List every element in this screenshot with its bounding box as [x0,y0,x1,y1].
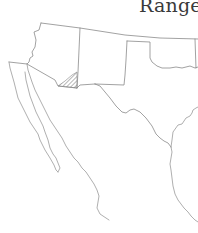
arizona-western-border [9,23,41,64]
range-highlight-area [58,72,77,88]
rio-grande-border [95,84,171,147]
new-mexico-texas-border [95,41,127,85]
baja-california-west-coast [9,62,58,172]
us-mexico-border-new-mexico [77,84,95,88]
range-map [0,0,198,233]
oklahoma-east-border [195,39,196,68]
oklahoma-border [127,41,198,68]
arizona-new-mexico-border [77,28,80,88]
mexico-gulf-coast [170,147,198,222]
northern-state-boundary [41,23,198,39]
texas-gulf-coast [171,107,198,147]
